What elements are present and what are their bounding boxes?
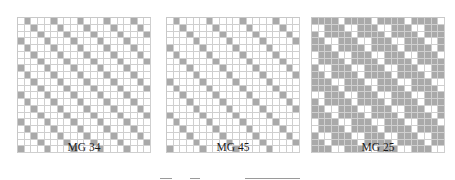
empty-cell (247, 79, 254, 86)
empty-cell (118, 72, 125, 79)
empty-cell (260, 113, 267, 120)
empty-cell (365, 113, 372, 120)
shaded-cell (31, 25, 38, 32)
shaded-cell (412, 106, 419, 113)
empty-cell (280, 45, 287, 52)
empty-cell (213, 86, 220, 93)
empty-cell (325, 65, 332, 72)
shaded-cell (280, 25, 287, 32)
shaded-cell (392, 52, 399, 59)
empty-cell (111, 72, 118, 79)
shaded-cell (339, 92, 346, 99)
shaded-cell (98, 65, 105, 72)
empty-cell (194, 59, 201, 66)
empty-cell (187, 38, 194, 45)
empty-cell (260, 133, 267, 140)
empty-cell (247, 113, 254, 120)
shaded-cell (247, 92, 254, 99)
shaded-cell (385, 38, 392, 45)
empty-cell (144, 126, 151, 133)
empty-cell (180, 18, 187, 25)
empty-cell (51, 133, 58, 140)
empty-cell (213, 133, 220, 140)
shaded-cell (312, 106, 319, 113)
empty-cell (71, 59, 78, 66)
shaded-cell (58, 79, 65, 86)
empty-cell (213, 106, 220, 113)
empty-cell (18, 25, 25, 32)
shaded-cell (240, 18, 247, 25)
shaded-cell (378, 18, 385, 25)
empty-cell (124, 126, 131, 133)
empty-cell (98, 32, 105, 39)
empty-cell (273, 79, 280, 86)
shaded-cell (187, 32, 194, 39)
empty-cell (398, 113, 405, 120)
empty-cell (124, 72, 131, 79)
shaded-cell (98, 119, 105, 126)
empty-cell (25, 92, 32, 99)
empty-cell (398, 38, 405, 45)
shaded-cell (207, 86, 214, 93)
shaded-cell (425, 59, 432, 66)
empty-cell (187, 18, 194, 25)
shaded-cell (405, 99, 412, 106)
empty-cell (287, 126, 294, 133)
empty-cell (45, 59, 52, 66)
shaded-cell (365, 72, 372, 79)
shaded-cell (405, 65, 412, 72)
shaded-cell (412, 65, 419, 72)
shaded-cell (332, 59, 339, 66)
empty-cell (31, 38, 38, 45)
empty-cell (267, 38, 274, 45)
empty-cell (352, 99, 359, 106)
empty-cell (418, 65, 425, 72)
empty-cell (71, 45, 78, 52)
empty-cell (98, 86, 105, 93)
empty-cell (267, 52, 274, 59)
empty-cell (213, 52, 220, 59)
empty-cell (138, 65, 145, 72)
shaded-cell (174, 119, 181, 126)
shaded-cell (378, 113, 385, 120)
empty-cell (104, 52, 111, 59)
shaded-cell (392, 45, 399, 52)
empty-cell (227, 113, 234, 120)
empty-cell (45, 126, 52, 133)
shaded-cell (365, 18, 372, 25)
shaded-cell (412, 38, 419, 45)
empty-cell (233, 133, 240, 140)
empty-cell (312, 92, 319, 99)
shaded-cell (51, 45, 58, 52)
shaded-cell (118, 59, 125, 66)
shaded-cell (312, 133, 319, 140)
shaded-cell (45, 92, 52, 99)
empty-cell (339, 18, 346, 25)
shaded-cell (207, 52, 214, 59)
empty-cell (233, 119, 240, 126)
shaded-cell (412, 32, 419, 39)
shaded-cell (118, 113, 125, 120)
shaded-cell (312, 32, 319, 39)
shaded-cell (45, 119, 52, 126)
empty-cell (425, 106, 432, 113)
shaded-cell (398, 126, 405, 133)
weave-diagram-mg34 (17, 17, 151, 153)
shaded-cell (18, 119, 25, 126)
shaded-cell (432, 86, 439, 93)
empty-cell (51, 65, 58, 72)
empty-cell (84, 32, 91, 39)
empty-cell (273, 113, 280, 120)
empty-cell (58, 119, 65, 126)
shaded-cell (432, 119, 439, 126)
empty-cell (51, 79, 58, 86)
shaded-cell (365, 52, 372, 59)
empty-cell (293, 25, 300, 32)
empty-cell (18, 133, 25, 140)
shaded-cell (352, 86, 359, 93)
shaded-cell (398, 133, 405, 140)
empty-cell (267, 72, 274, 79)
empty-cell (45, 52, 52, 59)
shaded-cell (287, 99, 294, 106)
empty-cell (220, 86, 227, 93)
